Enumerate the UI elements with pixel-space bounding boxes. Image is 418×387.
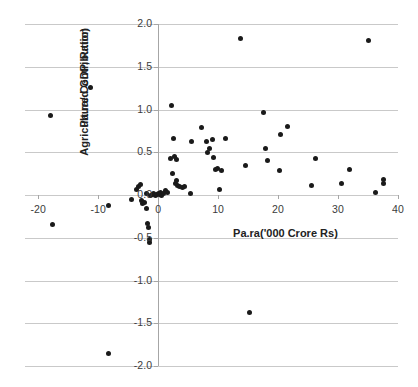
data-point xyxy=(381,181,386,186)
data-point xyxy=(48,113,53,118)
data-point xyxy=(106,351,111,356)
gridline-y xyxy=(25,24,398,25)
x-tick-label: 20 xyxy=(258,203,298,215)
data-point xyxy=(265,158,270,163)
y-axis-title-line2: Pa.ra/d GDP, Ratio) xyxy=(78,28,91,127)
x-tick-label: 10 xyxy=(198,203,238,215)
data-point xyxy=(263,146,268,151)
data-point xyxy=(211,155,216,160)
x-axis-title: Pa.ra('000 Crore Rs) xyxy=(233,227,338,239)
data-point xyxy=(223,136,228,141)
data-point xyxy=(247,310,252,315)
y-tick-label: -2.0 xyxy=(122,359,152,371)
data-point xyxy=(285,124,290,129)
data-point xyxy=(238,36,243,41)
data-point xyxy=(347,167,352,172)
gridline-y xyxy=(25,281,398,282)
y-tick-mark xyxy=(154,366,158,367)
scatter-chart: Agriculture Contribution Pa.ra/d GDP, Ra… xyxy=(0,0,418,387)
data-point xyxy=(309,183,314,188)
gridline-y xyxy=(25,323,398,324)
data-point xyxy=(261,110,266,115)
y-tick-label: 1.5 xyxy=(122,60,152,72)
data-point xyxy=(217,187,222,192)
data-point xyxy=(366,38,371,43)
x-tick-mark xyxy=(38,195,39,199)
y-tick-label: 0.5 xyxy=(122,145,152,157)
x-tick-mark xyxy=(398,195,399,199)
x-tick-mark xyxy=(218,195,219,199)
gridline-y xyxy=(25,238,398,239)
data-point xyxy=(182,184,187,189)
data-point xyxy=(169,103,174,108)
y-tick-label: 1.0 xyxy=(122,103,152,115)
x-tick-mark xyxy=(278,195,279,199)
data-point xyxy=(207,146,212,151)
x-tick-label: -20 xyxy=(18,203,58,215)
data-point xyxy=(199,125,204,130)
data-point xyxy=(219,168,224,173)
x-tick-label: 0 xyxy=(138,203,178,215)
data-point xyxy=(188,191,193,196)
y-tick-label: -1.5 xyxy=(122,316,152,328)
data-point xyxy=(339,181,344,186)
data-point xyxy=(278,132,283,137)
data-point xyxy=(170,171,175,176)
data-point xyxy=(50,222,55,227)
x-tick-label: 40 xyxy=(378,203,418,215)
y-tick-label: 2.0 xyxy=(122,17,152,29)
data-point xyxy=(313,156,318,161)
y-tick-label: -1.0 xyxy=(122,274,152,286)
x-tick-mark xyxy=(98,195,99,199)
gridline-y xyxy=(25,195,398,196)
data-point xyxy=(171,136,176,141)
data-point xyxy=(210,137,215,142)
data-point xyxy=(189,139,194,144)
x-tick-mark xyxy=(338,195,339,199)
y-tick-label: 0.0 xyxy=(122,188,152,200)
x-tick-label: 30 xyxy=(318,203,358,215)
data-point xyxy=(146,225,151,230)
x-tick-label: -10 xyxy=(78,203,118,215)
y-tick-label: -0.5 xyxy=(122,231,152,243)
gridline-y xyxy=(25,366,398,367)
data-point xyxy=(138,182,143,187)
data-point xyxy=(243,163,248,168)
data-point xyxy=(204,139,209,144)
data-point xyxy=(174,157,179,162)
data-point xyxy=(277,168,282,173)
